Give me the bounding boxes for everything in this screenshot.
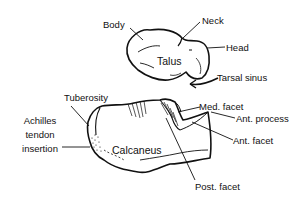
label-ant-facet: Ant. facet: [233, 136, 273, 146]
label-neck: Neck: [202, 16, 224, 26]
label-head: Head: [226, 43, 249, 53]
achilles-line-2: tendon: [18, 128, 62, 142]
label-talus: Talus: [157, 56, 182, 67]
achilles-line-1: Achilles: [18, 114, 62, 128]
achilles-line-3: insertion: [18, 142, 62, 156]
label-post-facet: Post. facet: [195, 182, 240, 192]
calcaneus-bone: [88, 99, 211, 172]
label-med-facet: Med. facet: [199, 102, 243, 112]
label-achilles-tendon-insertion: Achilles tendon insertion: [18, 114, 62, 156]
label-tuberosity: Tuberosity: [64, 93, 108, 103]
tarsal-sinus-arrow: [190, 78, 218, 88]
label-ant-process: Ant. process: [236, 114, 289, 124]
bone-illustration: [0, 0, 308, 200]
label-calcaneus: Calcaneus: [112, 145, 162, 156]
label-body: Body: [103, 20, 125, 30]
label-tarsal-sinus: Tarsal sinus: [217, 73, 267, 83]
